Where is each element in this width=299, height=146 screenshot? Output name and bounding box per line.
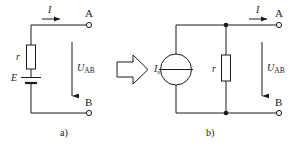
equivalence-arrow-icon bbox=[117, 55, 148, 84]
circuit-b-resistor-r bbox=[222, 55, 231, 81]
circuit-a-battery-e bbox=[21, 78, 41, 84]
circuit-a-voltage-label: UAB bbox=[77, 63, 95, 73]
circuit-a-terminal-a-label: A bbox=[85, 8, 93, 19]
circuit-b-junction-dot-top bbox=[224, 23, 229, 28]
circuit-b-terminal-a-node bbox=[276, 22, 281, 27]
circuit-b-junction-dot-bottom bbox=[224, 111, 229, 116]
circuit-b-current-source-symbol bbox=[159, 54, 193, 85]
circuit-b-terminal-b-node bbox=[276, 110, 281, 115]
circuit-b-source-subscript: s bbox=[157, 68, 160, 76]
circuit-a-voltage-subscript: AB bbox=[84, 66, 95, 75]
circuit-a-terminal-a-node bbox=[86, 22, 91, 27]
circuit-drawing-canvas bbox=[0, 0, 299, 146]
circuit-a-resistor-r bbox=[27, 45, 36, 69]
circuit-b-voltage-subscript: AB bbox=[274, 66, 285, 75]
circuit-b-resistor-label: r bbox=[212, 64, 216, 74]
circuit-a-terminal-b-node bbox=[86, 110, 91, 115]
circuit-a-current-label: I bbox=[48, 5, 51, 15]
circuit-b-group bbox=[159, 19, 282, 116]
caption-a: a) bbox=[60, 128, 68, 138]
circuit-b-terminal-b-label: B bbox=[275, 97, 282, 108]
circuit-a-emf-label: E bbox=[11, 73, 17, 83]
circuit-b-terminal-a-label: A bbox=[275, 8, 283, 19]
circuit-a-resistor-label: r bbox=[16, 52, 20, 62]
circuit-b-current-label: I bbox=[256, 5, 259, 15]
circuit-b-voltage-label: UAB bbox=[267, 63, 285, 73]
circuit-figure: I r E UAB A B a) I Is r UAB A B b) bbox=[0, 0, 299, 146]
circuit-b-source-label: Is bbox=[154, 64, 160, 74]
caption-b: b) bbox=[206, 128, 214, 138]
circuit-a-terminal-b-label: B bbox=[85, 97, 92, 108]
